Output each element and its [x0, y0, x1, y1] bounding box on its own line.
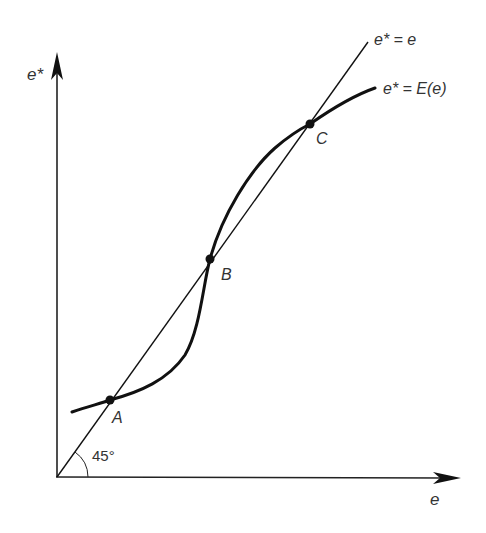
x-axis-label: e — [430, 490, 439, 509]
point-a-marker — [106, 396, 115, 405]
y-axis-label: e* — [27, 65, 44, 84]
point-c-marker — [306, 120, 315, 129]
angle-label: 45° — [92, 447, 115, 464]
equilibrium-diagram: e* e e* = e e* = E(e) 45° A B C — [0, 0, 486, 533]
point-b-marker — [206, 255, 215, 264]
angle-arc — [75, 452, 88, 477]
expectation-curve — [72, 88, 375, 412]
point-b-label: B — [221, 266, 232, 283]
point-c-label: C — [316, 130, 328, 147]
point-a-label: A — [111, 409, 123, 426]
forty-five-line-label: e* = e — [374, 31, 416, 48]
curve-label: e* = E(e) — [383, 80, 447, 97]
x-axis — [56, 477, 448, 478]
